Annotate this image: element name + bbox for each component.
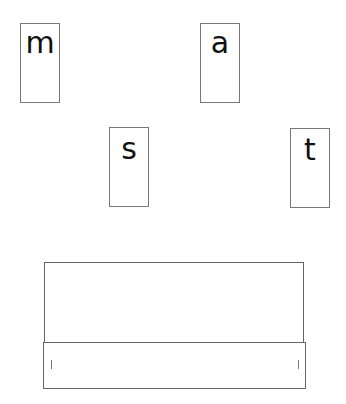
- letter-s: s: [110, 134, 148, 164]
- left-mark-icon: [51, 360, 52, 369]
- letter-m: m: [21, 28, 59, 58]
- right-mark-icon: [298, 360, 299, 369]
- letter-a: a: [201, 28, 239, 58]
- word-drop-strip[interactable]: [43, 342, 306, 389]
- letter-card-t[interactable]: t: [290, 128, 330, 208]
- word-drop-area[interactable]: [44, 262, 304, 342]
- letter-card-s[interactable]: s: [109, 127, 149, 207]
- letter-t: t: [291, 135, 329, 165]
- letter-card-m[interactable]: m: [20, 23, 60, 103]
- letter-card-a[interactable]: a: [200, 23, 240, 103]
